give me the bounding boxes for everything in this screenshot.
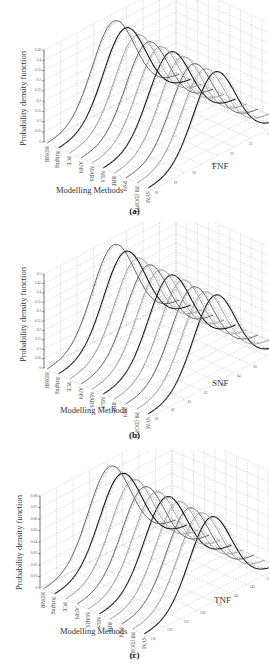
chart-panel-b: Probability density function Modelling M… — [0, 222, 269, 448]
method-label: PSN — [122, 181, 128, 191]
z-tick: 18 — [155, 191, 159, 195]
z-tick: 62 — [204, 391, 208, 395]
method-label: HDMR — [44, 146, 50, 163]
y-tick: 0 — [27, 140, 41, 144]
z-tick: 24 — [268, 132, 269, 136]
method-label: PR (DOPT) — [134, 412, 140, 438]
z-tick: 22 — [230, 152, 234, 156]
y-tick: 0.04 — [23, 540, 37, 544]
z-tick: 110 — [151, 637, 156, 641]
z-tick: 63 — [221, 383, 225, 387]
method-label: ANN — [78, 387, 84, 399]
y-tick: 0.3 — [27, 309, 41, 313]
y-tick: 0.1 — [27, 347, 41, 351]
method-label: RBF — [107, 622, 113, 632]
z-tick: 150 — [266, 577, 269, 581]
method-label: MARS — [89, 392, 95, 408]
method-label: HDMR — [40, 592, 46, 609]
method-label: Kriging — [51, 597, 57, 614]
method-label: PSN — [118, 627, 124, 637]
y-tick: 0.05 — [27, 129, 41, 133]
y-tick: 0.07 — [23, 505, 37, 509]
z-tick: 145 — [250, 585, 255, 589]
chart-panel-c: Probability density function Modelling M… — [0, 450, 269, 668]
y-tick: 0.02 — [23, 563, 37, 567]
method-label: PR (DOPT) — [134, 186, 140, 212]
z-tick: 20 — [192, 171, 196, 175]
method-label: ANN — [74, 607, 80, 619]
method-label: MLS — [100, 397, 106, 408]
z-tick: 125 — [184, 620, 189, 624]
z-tick: 23 — [249, 142, 253, 146]
y-tick: 0.5 — [27, 272, 41, 276]
method-label: RBF — [111, 402, 117, 412]
z-tick: 61 — [188, 400, 192, 404]
z-tick: 120 — [167, 628, 172, 632]
y-tick: 0.03 — [23, 551, 37, 555]
y-tick: 0.2 — [27, 328, 41, 332]
z-tick: 19 — [173, 181, 177, 185]
method-label: HDMR — [44, 372, 50, 389]
y-tick: 0.15 — [27, 109, 41, 113]
chart-panel-a: Probability density function Modelling M… — [0, 0, 269, 220]
x-axis-label: Modelling Methods — [56, 185, 123, 195]
method-label: MARS — [89, 166, 95, 182]
method-label: MLS — [96, 617, 102, 628]
method-label: Kriging — [55, 151, 61, 168]
z-tick: 64 — [237, 374, 241, 378]
y-tick: 0.45 — [27, 48, 41, 52]
y-tick: 0.35 — [27, 68, 41, 72]
method-label: SVM — [141, 637, 147, 649]
method-label: PCE — [66, 382, 72, 392]
method-label: PCE — [66, 156, 72, 166]
y-tick: 0.4 — [27, 58, 41, 62]
z-tick: 58 — [155, 417, 159, 421]
z-tick: 140 — [233, 594, 238, 598]
z-tick: 130 — [200, 611, 205, 615]
y-tick: 0.05 — [23, 528, 37, 532]
z-tick: 60 — [171, 408, 175, 412]
method-label: RBF — [111, 176, 117, 186]
method-label: MLS — [100, 171, 106, 182]
method-label: ANN — [78, 161, 84, 173]
y-tick: 0.25 — [27, 88, 41, 92]
z-tick: 21 — [211, 162, 215, 166]
y-tick: 0.08 — [23, 494, 37, 498]
y-tick: 0.01 — [23, 574, 37, 578]
method-label: PR (DOPT) — [130, 632, 136, 658]
method-label: SVM — [145, 417, 151, 429]
method-label: MARS — [85, 612, 91, 628]
z-tick: 135 — [217, 603, 222, 607]
y-tick: 0.4 — [27, 290, 41, 294]
y-tick: 0.3 — [27, 78, 41, 82]
y-tick: 0.35 — [27, 300, 41, 304]
y-tick: 0.05 — [27, 356, 41, 360]
y-tick: 0.15 — [27, 337, 41, 341]
z-tick: 65 — [254, 365, 258, 369]
y-tick: 0.25 — [27, 319, 41, 323]
y-tick: 0 — [27, 366, 41, 370]
method-label: PSN — [122, 407, 128, 417]
y-tick: 0.06 — [23, 517, 37, 521]
method-label: Kriging — [55, 377, 61, 394]
y-tick: 0.45 — [27, 281, 41, 285]
y-tick: 0 — [23, 586, 37, 590]
y-tick: 0.2 — [27, 99, 41, 103]
method-label: PCE — [62, 602, 68, 612]
y-tick: 0.1 — [27, 119, 41, 123]
method-label: SVM — [145, 191, 151, 203]
